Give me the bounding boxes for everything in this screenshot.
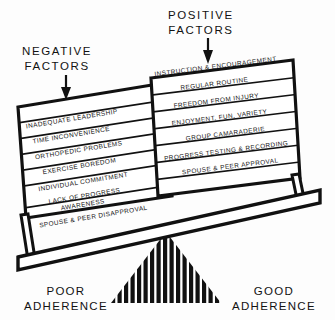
good-label-line2: ADHERENCE — [232, 299, 316, 314]
negative-factors-heading: NEGATIVE FACTORS — [22, 44, 92, 74]
good-label-line1: GOOD — [232, 284, 316, 299]
good-adherence-label: GOOD ADHERENCE — [232, 284, 316, 314]
positive-arrow-icon — [203, 38, 213, 64]
positive-factors-heading: POSITIVE FACTORS — [168, 8, 234, 38]
negative-arrow-icon — [61, 75, 71, 100]
poor-adherence-label: POOR ADHERENCE — [24, 284, 108, 314]
positive-heading-line2: FACTORS — [168, 23, 234, 38]
negative-heading-line2: FACTORS — [22, 59, 92, 74]
poor-label-line1: POOR — [24, 284, 108, 299]
diagram-canvas: INADEQUATE LEADERSHIP TIME INCONVENIENCE… — [0, 0, 335, 320]
positive-factors-stack: INSTRUCTION & ENCOURAGEMENT REGULAR ROUT… — [145, 52, 310, 207]
poor-label-line2: ADHERENCE — [24, 299, 108, 314]
positive-heading-line1: POSITIVE — [168, 8, 234, 23]
negative-heading-line1: NEGATIVE — [22, 44, 92, 59]
